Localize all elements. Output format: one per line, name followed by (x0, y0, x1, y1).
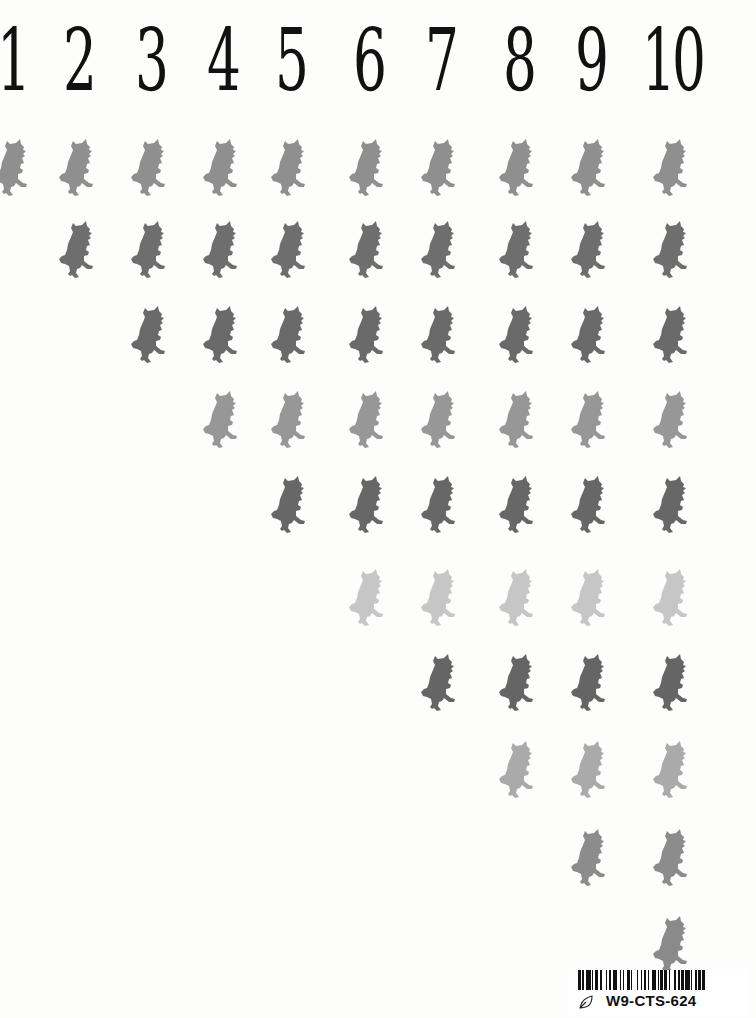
gruffalo-silhouette-icon (128, 137, 172, 199)
gruffalo-silhouette-icon (650, 219, 694, 281)
gruffalo-silhouette-icon (568, 567, 612, 629)
gruffalo-silhouette-icon (496, 219, 540, 281)
gruffalo-silhouette-icon (200, 389, 244, 451)
gruffalo-silhouette-icon (650, 567, 694, 629)
numeral-10: 10 (642, 14, 702, 106)
gruffalo-silhouette-icon (200, 304, 244, 366)
gruffalo-silhouette-icon (268, 474, 312, 536)
gruffalo-silhouette-icon (568, 304, 612, 366)
gruffalo-silhouette-icon (56, 219, 100, 281)
gruffalo-silhouette-icon (346, 389, 390, 451)
numeral-3: 3 (135, 14, 165, 106)
gruffalo-silhouette-icon (346, 137, 390, 199)
numeral-2: 2 (63, 14, 93, 106)
leaf-outline-icon (578, 994, 594, 1010)
gruffalo-silhouette-icon (0, 137, 34, 199)
gruffalo-silhouette-icon (128, 219, 172, 281)
gruffalo-silhouette-icon (56, 137, 100, 199)
gruffalo-silhouette-icon (496, 652, 540, 714)
gruffalo-silhouette-icon (346, 567, 390, 629)
numeral-6: 6 (353, 14, 383, 106)
gruffalo-silhouette-icon (418, 474, 462, 536)
gruffalo-silhouette-icon (268, 137, 312, 199)
gruffalo-silhouette-icon (418, 219, 462, 281)
numeral-9: 9 (575, 14, 605, 106)
gruffalo-silhouette-icon (568, 474, 612, 536)
gruffalo-silhouette-icon (568, 652, 612, 714)
gruffalo-silhouette-icon (418, 652, 462, 714)
gruffalo-silhouette-icon (496, 739, 540, 801)
gruffalo-silhouette-icon (418, 567, 462, 629)
gruffalo-silhouette-icon (200, 137, 244, 199)
gruffalo-silhouette-icon (496, 474, 540, 536)
gruffalo-silhouette-icon (568, 827, 612, 889)
barcode-sticker: W9-CTS-624 (568, 970, 748, 1016)
gruffalo-silhouette-icon (650, 652, 694, 714)
gruffalo-silhouette-icon (268, 389, 312, 451)
gruffalo-silhouette-icon (268, 304, 312, 366)
numeral-7: 7 (425, 14, 455, 106)
gruffalo-silhouette-icon (418, 137, 462, 199)
gruffalo-silhouette-icon (650, 827, 694, 889)
gruffalo-silhouette-icon (650, 304, 694, 366)
gruffalo-silhouette-icon (650, 739, 694, 801)
gruffalo-silhouette-icon (650, 137, 694, 199)
gruffalo-silhouette-icon (650, 914, 694, 976)
numeral-1: 1 (0, 14, 27, 106)
gruffalo-silhouette-icon (418, 304, 462, 366)
gruffalo-silhouette-icon (568, 389, 612, 451)
gruffalo-silhouette-icon (346, 474, 390, 536)
numeral-4: 4 (207, 14, 237, 106)
numeral-8: 8 (503, 14, 533, 106)
gruffalo-silhouette-icon (650, 474, 694, 536)
gruffalo-silhouette-icon (496, 304, 540, 366)
gruffalo-silhouette-icon (650, 389, 694, 451)
gruffalo-silhouette-icon (268, 219, 312, 281)
gruffalo-silhouette-icon (496, 567, 540, 629)
gruffalo-silhouette-icon (568, 219, 612, 281)
gruffalo-silhouette-icon (346, 219, 390, 281)
gruffalo-silhouette-icon (496, 389, 540, 451)
barcode-icon (578, 970, 744, 990)
barcode-code: W9-CTS-624 (606, 992, 697, 1009)
gruffalo-silhouette-icon (418, 389, 462, 451)
gruffalo-silhouette-icon (346, 304, 390, 366)
gruffalo-silhouette-icon (568, 739, 612, 801)
numeral-5: 5 (275, 14, 305, 106)
gruffalo-silhouette-icon (128, 304, 172, 366)
gruffalo-silhouette-icon (568, 137, 612, 199)
gruffalo-silhouette-icon (496, 137, 540, 199)
gruffalo-silhouette-icon (200, 219, 244, 281)
